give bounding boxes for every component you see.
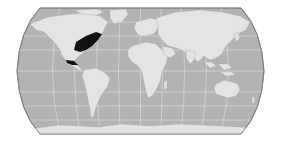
antarctica: [10, 124, 270, 140]
world-map-svg: [0, 0, 281, 150]
world-map: [0, 0, 281, 150]
